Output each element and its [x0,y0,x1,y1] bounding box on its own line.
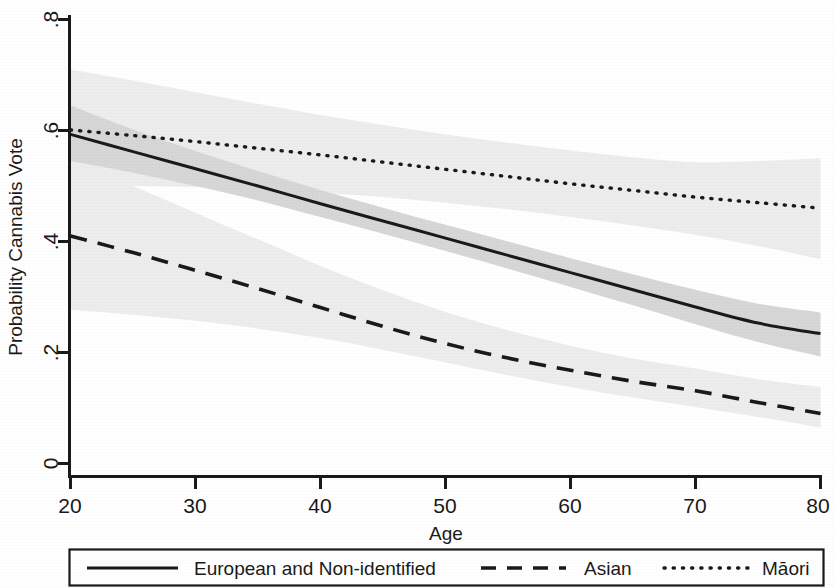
y-tick-label-02: .2 [39,344,62,362]
x-tick-label-40: 40 [308,494,331,517]
x-tick-label-80: 80 [806,494,829,517]
y-tick-label-08: .8 [39,11,62,29]
cannabis-vote-probability-chart: .8 .6 .4 .2 0 20 30 40 50 60 70 80 Proba… [0,0,835,588]
legend-label-maori: Māori [762,558,810,579]
legend: European and Non-identified Asian Māori [70,550,824,586]
y-tick-label-0: 0 [39,458,62,470]
figure-container: .8 .6 .4 .2 0 20 30 40 50 60 70 80 Proba… [0,0,835,588]
x-axis-title: Age [429,523,463,544]
legend-label-european: European and Non-identified [194,558,436,579]
y-tick-label-04: .4 [39,232,62,250]
x-tick-label-20: 20 [58,494,81,517]
x-tick-label-50: 50 [433,494,456,517]
legend-label-asian: Asian [584,558,632,579]
x-tick-label-30: 30 [183,494,206,517]
x-tick-label-70: 70 [683,494,706,517]
x-tick-label-60: 60 [558,494,581,517]
y-tick-label-06: .6 [39,122,62,140]
y-axis-title: Probability Cannabis Vote [5,138,26,356]
